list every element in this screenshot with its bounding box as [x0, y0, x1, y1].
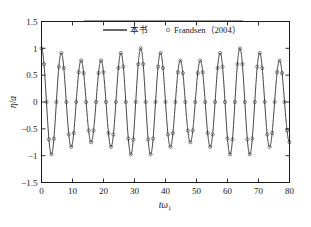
x-tick-label: 50: [192, 186, 202, 196]
y-tick-label: −1.5: [21, 178, 38, 188]
y-tick-label: 0.5: [26, 70, 38, 80]
legend-label-frandsen: Frandsen（2004）: [174, 25, 241, 35]
y-tick-label: −0.5: [21, 124, 38, 134]
x-tick-label: 70: [254, 186, 264, 196]
y-tick-label: 0: [33, 97, 38, 107]
oscillation-line-chart: 01020304050607080 −1.5−1−0.500.511.5 tω1…: [0, 0, 311, 227]
x-tick-label: 0: [39, 186, 44, 196]
y-tick-label: 1.5: [26, 17, 38, 27]
y-tick-label: 1: [33, 44, 38, 54]
x-tick-label: 10: [68, 186, 78, 196]
x-tick-label: 30: [130, 186, 140, 196]
chart-figure: 01020304050607080 −1.5−1−0.500.511.5 tω1…: [0, 0, 311, 227]
x-tick-label: 80: [285, 186, 295, 196]
y-tick-label: −1: [28, 151, 38, 161]
y-axis-title: η/a: [8, 96, 18, 108]
x-tick-label: 20: [99, 186, 109, 196]
chart-background: [0, 0, 311, 227]
x-tick-label: 60: [223, 186, 233, 196]
legend-label-benshu: 本书: [130, 24, 148, 35]
x-tick-label: 40: [161, 186, 171, 196]
